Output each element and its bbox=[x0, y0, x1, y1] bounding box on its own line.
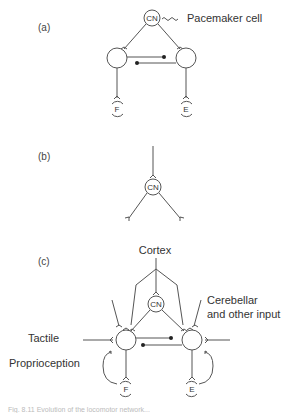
panel-c-cn-node: CN bbox=[148, 296, 164, 312]
panel-c-flexor-interneuron bbox=[116, 330, 136, 350]
cn-to-right-line bbox=[162, 310, 184, 331]
cn-to-left-line bbox=[124, 24, 146, 49]
cortex-label: Cortex bbox=[139, 244, 172, 256]
proprioception-loop-left bbox=[103, 352, 117, 384]
panel-b-label: (b) bbox=[38, 151, 50, 162]
panel-a-extensor-interneuron bbox=[176, 48, 196, 68]
figure-caption: Fig. 8.11 Evolution of the locomotor net… bbox=[8, 406, 150, 413]
cpg-diagram: (a) CN Pacemaker cell F bbox=[0, 0, 295, 413]
panel-b-cn-node: CN bbox=[145, 179, 161, 195]
proprioception-loop-right bbox=[199, 352, 213, 384]
synapse-icon bbox=[180, 217, 184, 221]
proprioception-label: Proprioception bbox=[9, 357, 80, 369]
flexor-label: F bbox=[124, 385, 129, 394]
panel-b: (b) CN bbox=[38, 146, 184, 221]
panel-c-cn-label: CN bbox=[150, 300, 162, 309]
pacemaker-label: Pacemaker cell bbox=[187, 12, 262, 24]
cerebellar-label-line2: and other input bbox=[207, 308, 280, 320]
inhibitory-terminal-icon bbox=[141, 343, 145, 347]
cerebellar-label-line1: Cerebellar bbox=[207, 294, 258, 306]
panel-a-flexor-interneuron bbox=[107, 48, 127, 68]
synapse-icon bbox=[123, 377, 129, 380]
panel-b-cn-label: CN bbox=[147, 183, 159, 192]
flexor-label: F bbox=[115, 105, 120, 114]
inhibitory-terminal-icon bbox=[169, 336, 173, 340]
panel-a-label: (a) bbox=[38, 22, 50, 33]
inhibitory-terminal-icon bbox=[162, 55, 166, 59]
cerebellar-input-right bbox=[194, 300, 201, 326]
panel-a-flexor-motor: F bbox=[112, 101, 123, 116]
synapse-icon bbox=[125, 217, 129, 221]
panel-c-extensor-motor: E bbox=[186, 381, 197, 396]
extensor-label: E bbox=[189, 385, 194, 394]
panel-a-extensor-motor: E bbox=[181, 101, 192, 116]
panel-b-left-branch bbox=[129, 193, 147, 218]
cn-to-right-line bbox=[158, 24, 180, 49]
synapse-icon bbox=[189, 377, 195, 380]
panel-c-flexor-motor: F bbox=[120, 381, 131, 396]
panel-a-cn-node: CN bbox=[144, 10, 160, 26]
pacemaker-wave-icon bbox=[162, 18, 178, 21]
panel-c-label: (c) bbox=[38, 256, 50, 267]
synapse-icon bbox=[153, 292, 159, 295]
panel-a-cn-label: CN bbox=[146, 14, 158, 23]
panel-a: (a) CN Pacemaker cell F bbox=[38, 10, 262, 117]
panel-b-right-branch bbox=[159, 193, 180, 218]
cerebellar-input-left bbox=[112, 300, 119, 326]
synapse-icon bbox=[192, 325, 198, 327]
panel-c: (c) Cortex CN Cerebellar and other input bbox=[9, 244, 280, 397]
tactile-label: Tactile bbox=[28, 332, 59, 344]
panel-c-extensor-interneuron bbox=[182, 330, 202, 350]
inhibitory-terminal-icon bbox=[135, 61, 139, 65]
synapse-icon bbox=[150, 175, 156, 178]
extensor-label: E bbox=[183, 105, 188, 114]
cn-to-left-line bbox=[131, 310, 150, 331]
